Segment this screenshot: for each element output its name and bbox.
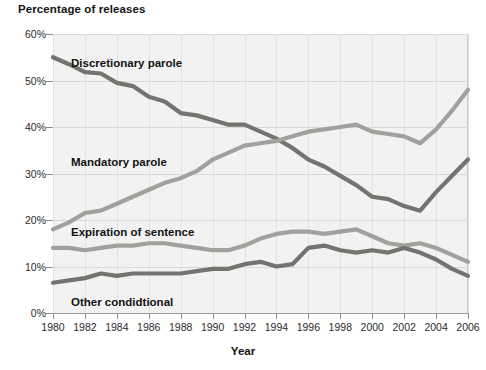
series-label: Expiration of sentence [71, 226, 194, 238]
series-label: Discretionary parole [71, 57, 182, 69]
series-label: Mandatory parole [71, 156, 167, 168]
series-label: Other condidtional [71, 296, 173, 308]
series-line [53, 57, 468, 210]
line-chart: Percentage of releases 0%10%20%30%40%50%… [0, 0, 486, 370]
x-axis-title: Year [0, 345, 486, 357]
series-line [53, 246, 468, 283]
series-lines [0, 0, 486, 370]
